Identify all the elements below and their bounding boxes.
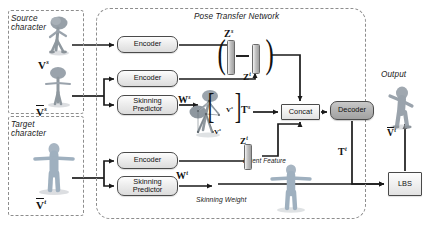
skinning-weight-tpose-figure [268, 162, 314, 214]
skinning-predictor-source-label: Skinning Predictor [133, 97, 163, 113]
encoder-target-node[interactable]: Encoder [117, 152, 178, 169]
lbs-node[interactable]: LBS [388, 172, 422, 196]
symbol-v-bar-target-sup: t [44, 198, 46, 205]
symbol-v-inner-2-sup: s [219, 127, 221, 132]
paren-close-symbol: ) [266, 34, 274, 74]
target-character-label: Target character [11, 120, 46, 138]
diagram-root: Source character Target character Pose T… [0, 0, 434, 235]
decoder-label: Decoder [338, 106, 366, 114]
symbol-z-source-sup: s [231, 27, 233, 34]
bracket-open-symbol: [ [208, 88, 215, 124]
pose-transfer-network-label: Pose Transfer Network [194, 12, 279, 21]
symbol-v-bar-target: Vt [36, 199, 46, 211]
lbs-label: LBS [398, 180, 412, 188]
symbol-v-source-base: V [38, 59, 46, 71]
symbol-t-target: Tt [338, 146, 347, 157]
symbol-z-target-sup: t [249, 71, 251, 77]
symbol-v-hat-target-sup: t [394, 127, 396, 133]
symbol-t-target-base: T [338, 146, 345, 157]
encoder-source-rest-node[interactable]: Encoder [117, 70, 178, 87]
target-character-figure [30, 140, 78, 196]
skinning-predictor-source-node[interactable]: Skinning Predictor [117, 95, 178, 115]
symbol-w-target-sup: t [186, 169, 188, 176]
decoder-node[interactable]: Decoder [330, 101, 374, 120]
symbol-v-hat-target-base: V [387, 128, 394, 138]
symbol-w-source-sup: s [188, 93, 190, 100]
concat-label: Concat [289, 108, 312, 116]
skinning-weight-label: Skinning Weight [196, 196, 247, 204]
symbol-v-bar-source-base: V [36, 106, 44, 118]
encoder-target-label: Encoder [134, 156, 162, 164]
symbol-z-target-latent: Zt [240, 136, 248, 146]
symbol-v-inner-1: Vs [226, 106, 233, 114]
symbol-z-target-latent-sup: t [246, 135, 248, 141]
latent-feature-bar [244, 144, 252, 170]
source-character-label: Source character [11, 14, 46, 32]
symbol-v-source-sup: s [46, 58, 49, 65]
symbol-w-target: Wt [176, 170, 188, 181]
symbol-v-hat-target: Vt [387, 128, 396, 139]
encoder-source-rest-label: Encoder [134, 74, 162, 82]
symbol-t-source-sup: s [248, 103, 250, 110]
output-character-figure [382, 84, 420, 130]
skinning-predictor-target-label: Skinning Predictor [133, 178, 163, 194]
symbol-v-bar-target-base: V [36, 199, 44, 211]
encoder-source-pose-label: Encoder [134, 40, 162, 48]
symbol-t-source: Ts [241, 104, 250, 115]
symbol-z-target: Zt [243, 72, 251, 82]
skinning-predictor-target-node[interactable]: Skinning Predictor [117, 176, 178, 196]
symbol-t-source-base: T [241, 104, 248, 115]
source-character-posed-figure [44, 16, 74, 56]
source-character-rest-pose-figure [44, 66, 74, 108]
symbol-v-inner-1-sup: s [231, 105, 233, 110]
latent-vector-target-bar [252, 44, 260, 74]
symbol-w-source: Ws [178, 94, 191, 105]
symbol-w-source-base: W [178, 94, 188, 105]
symbol-t-target-sup: t [345, 145, 347, 152]
output-label: Output [381, 70, 406, 79]
symbol-v-source: Vs [38, 59, 49, 71]
symbol-z-source: Zs [224, 28, 233, 39]
encoder-source-pose-node[interactable]: Encoder [117, 36, 178, 53]
symbol-v-bar-source-sup: s [44, 105, 47, 112]
concat-node[interactable]: Concat [281, 104, 320, 120]
paren-open-symbol: ( [218, 34, 226, 74]
latent-vector-source-bar [227, 40, 235, 75]
minus-operator-icon [236, 55, 249, 57]
symbol-z-source-base: Z [224, 28, 231, 39]
symbol-v-inner-2: Vs [214, 128, 221, 136]
symbol-w-target-base: W [176, 170, 186, 181]
symbol-v-bar-source: Vs [36, 106, 47, 118]
